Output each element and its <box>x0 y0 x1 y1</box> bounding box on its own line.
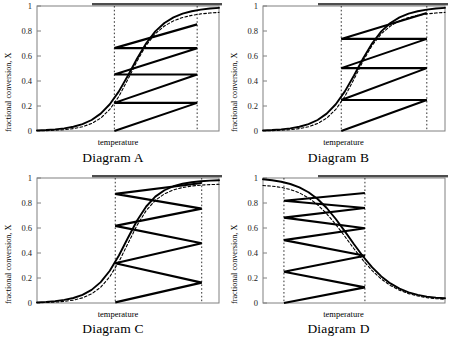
y-tick-label: 0.8 <box>21 26 32 36</box>
caption-diagram-a: Diagram A <box>0 150 226 166</box>
y-tick-label: 0.6 <box>21 223 32 233</box>
top-bar-artifact <box>92 175 222 177</box>
y-tick-label: 0.6 <box>21 51 32 61</box>
x-axis-label-b: temperature <box>244 137 443 147</box>
y-tick-label: 0.6 <box>247 223 258 233</box>
operating-path <box>284 193 365 303</box>
operating-path <box>341 13 427 131</box>
y-tick-label: 1 <box>28 173 32 183</box>
caption-diagram-d: Diagram D <box>226 321 451 337</box>
plot-frame <box>37 6 219 131</box>
y-axis-label-b: fractional conversion, X <box>230 8 239 132</box>
y-tick-label: 0.2 <box>247 273 258 283</box>
caption-diagram-b: Diagram B <box>226 150 451 166</box>
y-tick-label: 0.8 <box>21 198 32 208</box>
y-tick-label: 0.2 <box>21 273 32 283</box>
plot-b-content: 10.80.60.40.20 <box>247 1 448 136</box>
y-tick-label: 0 <box>254 126 258 136</box>
y-tick-label: 0.6 <box>247 51 258 61</box>
y-tick-label: 0.8 <box>247 26 258 36</box>
y-tick-label: 0.8 <box>247 198 258 208</box>
top-bar-artifact <box>92 3 222 5</box>
x-axis-label-a: temperature <box>18 137 218 147</box>
curve-rate-maximum <box>37 12 219 130</box>
y-tick-label: 0 <box>28 126 32 136</box>
plot-a-content: 10.80.60.40.20 <box>21 1 222 136</box>
x-axis-label-c: temperature <box>18 309 218 319</box>
y-tick-label: 0.4 <box>247 248 258 258</box>
y-axis-label-c: fractional conversion, X <box>4 180 13 304</box>
y-axis-label-d: fractional conversion, X <box>230 180 239 304</box>
y-tick-label: 0.4 <box>21 76 32 86</box>
caption-diagram-c: Diagram C <box>0 321 226 337</box>
panel-diagram-b: 10.80.60.40.20 fractional conversion, X … <box>226 0 451 172</box>
y-tick-label: 0.2 <box>21 101 32 111</box>
panel-diagram-d: 10.80.60.40.20 fractional conversion, X … <box>226 172 451 343</box>
y-tick-label: 0.2 <box>247 101 258 111</box>
y-tick-label: 0.4 <box>247 76 258 86</box>
plot-c-content: 10.80.60.40.20 <box>21 173 222 308</box>
y-tick-label: 1 <box>254 173 258 183</box>
y-axis-label-a: fractional conversion, X <box>4 8 13 132</box>
top-bar-artifact <box>318 175 448 177</box>
y-tick-label: 1 <box>28 1 32 11</box>
figure-grid: 10.80.60.40.20 fractional conversion, X … <box>0 0 451 343</box>
plot-d-content: 10.80.60.40.20 <box>247 173 448 308</box>
y-tick-label: 0.4 <box>21 248 32 258</box>
x-axis-label-d: temperature <box>244 309 443 319</box>
y-tick-label: 0 <box>28 298 32 308</box>
top-bar-artifact <box>318 3 448 5</box>
panel-diagram-a: 10.80.60.40.20 fractional conversion, X … <box>0 0 226 172</box>
y-tick-label: 0 <box>254 298 258 308</box>
y-tick-label: 1 <box>254 1 258 11</box>
panel-diagram-c: 10.80.60.40.20 fractional conversion, X … <box>0 172 226 343</box>
